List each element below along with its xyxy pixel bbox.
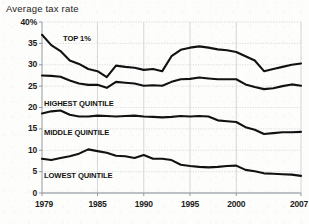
chart-plot-area bbox=[0, 0, 309, 224]
y-tick-label: 25 bbox=[13, 81, 37, 91]
series-label-lowest-quintile: LOWEST QUINTILE bbox=[44, 171, 113, 180]
x-tick-label: 1990 bbox=[124, 199, 164, 209]
chart-container: Average tax rate 40%35302520151050 19791… bbox=[0, 0, 309, 224]
x-tick-label: 1995 bbox=[170, 199, 210, 209]
y-tick-label: 30 bbox=[13, 59, 37, 69]
series-line-1 bbox=[42, 75, 301, 89]
series-label-middle-quintile: MIDDLE QUINTILE bbox=[44, 128, 109, 137]
x-tick-label: 1979 bbox=[24, 199, 64, 209]
series-label-top1: TOP 1% bbox=[63, 34, 91, 43]
y-tick-label: 40% bbox=[13, 17, 37, 27]
y-tick-label: 0 bbox=[13, 188, 37, 198]
series-label-highest-quintile: HIGHEST QUINTILE bbox=[44, 99, 114, 108]
y-tick-label: 35 bbox=[13, 38, 37, 48]
axis-lines bbox=[39, 22, 301, 196]
y-tick-label: 10 bbox=[13, 145, 37, 155]
y-tick-label: 5 bbox=[13, 166, 37, 176]
x-tick-label: 1985 bbox=[78, 199, 118, 209]
y-tick-label: 15 bbox=[13, 123, 37, 133]
x-tick-label: 2000 bbox=[216, 199, 256, 209]
x-tick-label: 2007 bbox=[279, 199, 309, 209]
y-tick-label: 20 bbox=[13, 102, 37, 112]
